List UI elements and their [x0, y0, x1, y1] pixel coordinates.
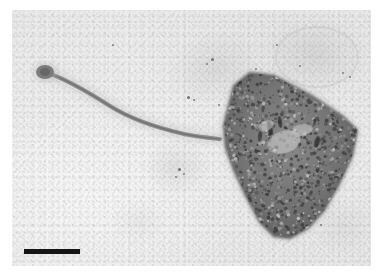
cell-granule — [280, 82, 282, 84]
cell-granule — [347, 195, 349, 197]
cell-granule — [239, 88, 241, 90]
cell-granule — [305, 147, 306, 148]
cell-granule — [317, 86, 319, 88]
cell-granule — [264, 114, 268, 118]
cell-granule — [294, 104, 295, 105]
cell-granule — [257, 101, 259, 103]
cell-granule — [236, 108, 240, 112]
cell-granule — [299, 177, 303, 181]
cell-granule — [331, 105, 334, 108]
cell-granule — [349, 184, 351, 186]
cell-granule — [335, 207, 338, 210]
cell-granule — [278, 225, 279, 226]
cell-granule — [262, 102, 266, 106]
cell-granule — [275, 162, 277, 164]
cell-granule — [317, 80, 320, 83]
cell-granule — [258, 142, 261, 145]
cell-granule — [310, 222, 311, 223]
cell-granule — [230, 219, 234, 223]
cell-granule — [303, 192, 306, 195]
cell-granule — [352, 174, 353, 175]
cell-granule — [335, 230, 337, 232]
cell-granule — [353, 226, 354, 227]
cell-granule — [337, 226, 340, 229]
cell-granule — [243, 224, 246, 227]
cell-granule — [225, 166, 229, 170]
cell-granule — [335, 196, 339, 200]
cell-granule — [305, 104, 308, 107]
cell-granule — [342, 189, 343, 190]
cell-granule — [237, 85, 239, 87]
cell-granule — [349, 190, 351, 192]
cell-granule — [291, 98, 294, 101]
cell-granule — [309, 91, 311, 93]
cell-granule — [285, 118, 287, 120]
cell-granule — [240, 171, 243, 174]
cell-granule — [339, 76, 341, 78]
cell-granule — [259, 154, 261, 156]
cell-granule — [236, 74, 237, 75]
cell-granule — [281, 214, 284, 217]
cell-granule — [326, 78, 328, 80]
cell-granule — [347, 102, 350, 105]
cell-granule — [307, 194, 309, 196]
cell-granule — [330, 177, 334, 181]
cell-granule — [352, 73, 355, 76]
cell-granule — [292, 151, 293, 152]
cell-granule — [352, 205, 355, 208]
cell-granule — [337, 233, 338, 234]
cell-granule — [341, 95, 342, 96]
cell-granule — [229, 198, 231, 200]
cell-granule — [313, 215, 315, 217]
cell-granule — [300, 192, 303, 195]
cell-granule — [356, 220, 359, 223]
cell-granule — [242, 168, 244, 170]
cell-granule — [247, 110, 249, 112]
cell-granule — [282, 98, 284, 100]
cell-granule — [318, 86, 321, 89]
cell-granule — [352, 179, 355, 182]
cell-granule — [338, 102, 340, 104]
cell-granule — [236, 217, 238, 219]
cell-granule — [326, 93, 330, 97]
cell-granule — [273, 226, 275, 228]
cell-granule — [293, 114, 296, 117]
cell-granule — [292, 110, 296, 114]
cell-granule — [336, 210, 340, 214]
cell-granule — [336, 129, 338, 131]
cell-granule — [224, 76, 228, 80]
cell-granule — [272, 113, 276, 117]
cell-granule — [351, 200, 355, 204]
cell-granule — [239, 177, 241, 179]
cell-granule — [296, 169, 300, 173]
cell-granule — [341, 234, 342, 235]
cell-granule — [356, 113, 357, 114]
cell-granule — [297, 213, 299, 215]
cell-granule — [259, 103, 262, 106]
cell-granule — [319, 193, 320, 194]
cell-granule — [250, 152, 252, 154]
cell-granule — [261, 115, 262, 116]
cell-granule — [326, 86, 327, 87]
cell-granule — [301, 204, 304, 207]
cell-granule — [245, 209, 246, 210]
cell-granule — [264, 191, 265, 192]
cell-granule — [235, 141, 237, 143]
cell-granule — [311, 229, 315, 233]
cell-granule — [290, 90, 294, 94]
cell-granule — [300, 150, 301, 151]
cell-granule — [321, 107, 322, 108]
cell-granule — [329, 153, 331, 155]
cell-granule — [344, 138, 348, 142]
cell-granule — [234, 188, 237, 191]
cell-granule — [347, 126, 351, 130]
cell-granule — [261, 230, 264, 233]
cell-granule — [294, 81, 296, 83]
cell-granule — [271, 204, 274, 207]
cell-granule — [275, 197, 278, 200]
cell-granule — [350, 97, 354, 101]
cell-granule — [223, 158, 224, 159]
cell-granule — [340, 85, 343, 88]
cell-granule — [256, 122, 258, 124]
cell-granule — [223, 192, 225, 194]
